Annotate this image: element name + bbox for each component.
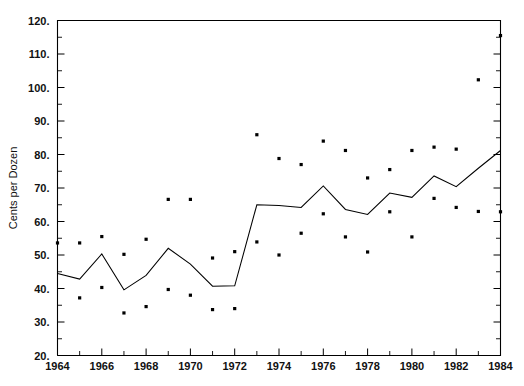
- data-point: [322, 140, 325, 143]
- x-tick-label: 1968: [134, 360, 158, 372]
- data-point: [78, 241, 81, 244]
- chart-background: [0, 0, 524, 386]
- data-point: [499, 34, 502, 37]
- data-point: [388, 210, 391, 213]
- data-point: [432, 146, 435, 149]
- egg-price-chart: 20.30.40.50.60.70.80.90.100.110.120. 196…: [0, 0, 524, 386]
- data-point: [388, 168, 391, 171]
- x-tick-label: 1964: [45, 360, 70, 372]
- data-point: [277, 253, 280, 256]
- chart-container: 20.30.40.50.60.70.80.90.100.110.120. 196…: [0, 0, 524, 386]
- data-point: [477, 210, 480, 213]
- data-point: [322, 212, 325, 215]
- x-tick-label: 1970: [178, 360, 202, 372]
- x-tick-label: 1966: [90, 360, 114, 372]
- data-point: [410, 235, 413, 238]
- data-point: [233, 307, 236, 310]
- data-point: [300, 163, 303, 166]
- data-point: [122, 311, 125, 314]
- data-point: [189, 294, 192, 297]
- data-point: [344, 235, 347, 238]
- data-point: [455, 206, 458, 209]
- data-point: [167, 288, 170, 291]
- x-tick-label: 1974: [267, 360, 292, 372]
- data-point: [499, 210, 502, 213]
- y-tick-label: 90.: [34, 115, 49, 127]
- data-point: [78, 296, 81, 299]
- x-tick-label: 1980: [400, 360, 424, 372]
- y-tick-label: 70.: [34, 182, 49, 194]
- data-point: [255, 133, 258, 136]
- x-tick-label: 1972: [222, 360, 246, 372]
- data-point: [477, 78, 480, 81]
- data-point: [145, 238, 148, 241]
- data-point: [277, 157, 280, 160]
- data-point: [100, 286, 103, 289]
- y-tick-label: 60.: [34, 216, 49, 228]
- data-point: [366, 176, 369, 179]
- y-tick-label: 100.: [28, 82, 49, 94]
- data-point: [167, 198, 170, 201]
- data-point: [300, 232, 303, 235]
- data-point: [366, 250, 369, 253]
- data-point: [100, 235, 103, 238]
- y-tick-label: 30.: [34, 316, 49, 328]
- data-point: [432, 197, 435, 200]
- y-tick-label: 110.: [29, 48, 50, 60]
- data-point: [255, 240, 258, 243]
- y-tick-label: 40.: [34, 283, 49, 295]
- data-point: [455, 148, 458, 151]
- data-point: [189, 198, 192, 201]
- y-tick-label: 120.: [28, 15, 49, 27]
- data-point: [233, 250, 236, 253]
- y-tick-label: 80.: [34, 149, 49, 161]
- x-tick-label: 1976: [311, 360, 335, 372]
- y-tick-label: 50.: [34, 249, 49, 261]
- data-point: [145, 305, 148, 308]
- data-point: [211, 256, 214, 259]
- data-point: [56, 241, 59, 244]
- data-point: [211, 308, 214, 311]
- data-point: [344, 149, 347, 152]
- y-axis-title: Cents per Dozen: [7, 147, 19, 230]
- x-tick-label: 1984: [488, 360, 513, 372]
- x-tick-label: 1982: [444, 360, 468, 372]
- x-tick-label: 1978: [355, 360, 379, 372]
- data-point: [410, 149, 413, 152]
- data-point: [122, 253, 125, 256]
